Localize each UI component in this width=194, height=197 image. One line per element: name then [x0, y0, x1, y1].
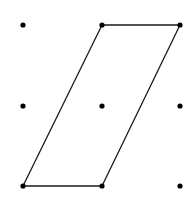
lattice-dot [177, 22, 182, 27]
lattice-dot [99, 103, 104, 108]
lattice-dot [99, 183, 104, 188]
lattice-dot [177, 183, 182, 188]
lattice-dot [99, 22, 104, 27]
lattice-dot [20, 183, 25, 188]
lattice-dots [20, 22, 182, 188]
lattice-dot [177, 103, 182, 108]
lattice-diagram [0, 0, 194, 197]
lattice-dot [20, 103, 25, 108]
lattice-dot [20, 22, 25, 27]
